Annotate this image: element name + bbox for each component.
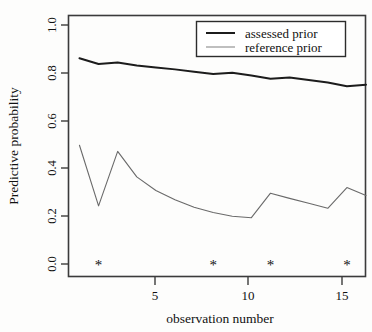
y-tick-label-0.4: 0.4 xyxy=(45,159,59,175)
chart-figure: 1.0 0.8 0.6 0.4 0.2 0.0 Predictive proba… xyxy=(0,0,372,332)
legend-label-assessed-prior: assessed prior xyxy=(245,26,318,41)
legend-label-reference-prior: reference prior xyxy=(245,40,323,55)
x-tick-label-5: 5 xyxy=(152,288,159,303)
predictive-probability-line-chart: 1.0 0.8 0.6 0.4 0.2 0.0 Predictive proba… xyxy=(0,0,372,332)
x-axis-ticks xyxy=(155,277,342,285)
y-axis-title: Predictive probability xyxy=(6,87,21,205)
y-tick-label-1.0: 1.0 xyxy=(45,17,59,33)
x-axis-tick-labels: 5 10 15 xyxy=(152,288,349,303)
x-tick-label-15: 15 xyxy=(336,288,349,303)
legend: assessed prior reference prior xyxy=(197,22,346,57)
series-line-reference-prior xyxy=(79,145,366,217)
flagged-observation-markers: **** xyxy=(95,257,351,273)
x-tick-label-10: 10 xyxy=(242,288,255,303)
y-tick-label-0.6: 0.6 xyxy=(45,113,59,129)
y-axis-ticks xyxy=(61,25,68,264)
y-tick-label-0.8: 0.8 xyxy=(45,65,59,81)
x-axis-title: observation number xyxy=(166,311,274,326)
asterisk-marker: * xyxy=(209,257,217,273)
y-tick-label-0.2: 0.2 xyxy=(45,208,59,224)
asterisk-marker: * xyxy=(343,257,351,273)
y-tick-label-0.0: 0.0 xyxy=(45,256,59,272)
asterisk-marker: * xyxy=(267,257,275,273)
series-line-assessed-prior xyxy=(79,58,366,86)
y-axis-tick-labels: 1.0 0.8 0.6 0.4 0.2 0.0 xyxy=(45,17,59,272)
asterisk-marker: * xyxy=(95,257,103,273)
